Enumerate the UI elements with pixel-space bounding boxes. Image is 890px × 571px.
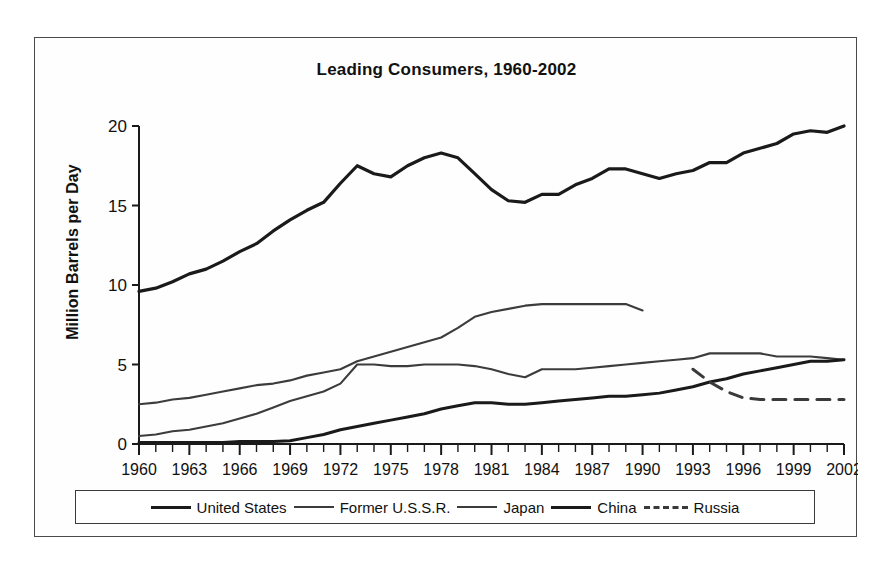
series-line-china — [139, 360, 844, 443]
x-tick-label: 1996 — [725, 461, 761, 478]
x-tick-label: 1999 — [776, 461, 812, 478]
legend-entry-china[interactable]: China — [551, 499, 636, 516]
legend-swatch-icon — [151, 506, 191, 509]
y-tick-label: 10 — [108, 276, 127, 295]
chart-figure: Leading Consumers, 1960-2002 Million Bar… — [34, 37, 857, 537]
x-tick-label: 1981 — [474, 461, 510, 478]
x-tick-label: 1960 — [121, 461, 157, 478]
legend-swatch-icon — [457, 506, 497, 508]
legend-swatch-icon — [551, 506, 591, 509]
series-line-russia — [693, 369, 844, 399]
x-tick-label: 1972 — [323, 461, 359, 478]
legend-entry-former-u-s-s-r[interactable]: Former U.S.S.R. — [294, 499, 451, 516]
series-line-united-states — [139, 126, 844, 291]
y-tick-label: 15 — [108, 197, 127, 216]
legend-label: Japan — [503, 499, 544, 516]
legend-label: Former U.S.S.R. — [340, 499, 451, 516]
x-tick-label: 1984 — [524, 461, 560, 478]
legend-label: Russia — [694, 499, 740, 516]
x-tick-label: 1969 — [272, 461, 308, 478]
legend-label: United States — [197, 499, 287, 516]
x-tick-label: 1975 — [373, 461, 409, 478]
plot-canvas: 0510152019601963196619691972197519781981… — [35, 38, 858, 538]
y-tick-label: 5 — [118, 356, 127, 375]
x-tick-label: 1963 — [172, 461, 208, 478]
chart-legend: United StatesFormer U.S.S.R.JapanChinaRu… — [75, 490, 815, 524]
x-tick-label: 1990 — [625, 461, 661, 478]
data-series-group — [139, 126, 844, 442]
axes — [132, 126, 844, 455]
legend-label: China — [597, 499, 636, 516]
x-tick-label: 1993 — [675, 461, 711, 478]
legend-entry-japan[interactable]: Japan — [457, 499, 544, 516]
series-line-former-u-s-s-r — [139, 304, 643, 404]
y-tick-label: 20 — [108, 117, 127, 136]
x-tick-label: 1987 — [574, 461, 610, 478]
legend-swatch-icon — [294, 506, 334, 508]
legend-swatch-icon — [644, 506, 688, 509]
x-tick-label: 2002 — [826, 461, 858, 478]
legend-entry-russia[interactable]: Russia — [644, 499, 740, 516]
y-tick-label: 0 — [118, 435, 127, 454]
legend-entry-united-states[interactable]: United States — [151, 499, 287, 516]
x-tick-label: 1966 — [222, 461, 258, 478]
x-tick-label: 1978 — [423, 461, 459, 478]
